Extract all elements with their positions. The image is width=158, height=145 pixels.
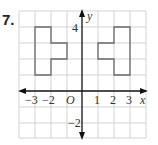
- x-tick-neg3: −3: [25, 93, 38, 107]
- x-tick-neg2: −2: [42, 93, 55, 107]
- y-axis-label: y: [86, 9, 93, 23]
- y-axis-arrow-up: [79, 9, 85, 17]
- x-axis-label: x: [139, 93, 146, 107]
- y-tick-neg2: −2: [68, 116, 81, 130]
- y-axis-arrow-down: [79, 132, 85, 140]
- x-tick-2: 2: [110, 93, 116, 107]
- y-tick-4: 4: [72, 21, 78, 35]
- coordinate-graph: y x O −3 −2 1 2 3 4 −2: [0, 0, 158, 145]
- x-tick-1: 1: [94, 93, 100, 107]
- origin-label: O: [66, 93, 75, 107]
- x-tick-3: 3: [126, 93, 132, 107]
